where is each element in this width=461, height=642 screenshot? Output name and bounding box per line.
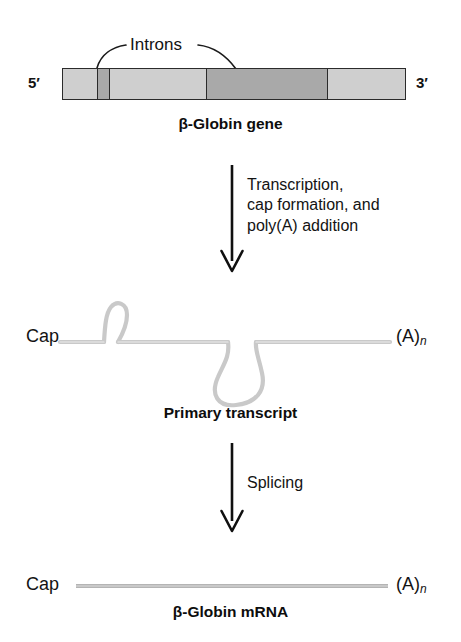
splicing-arrow-label: Splicing [247, 473, 303, 493]
splicing-arrow-icon [217, 443, 247, 533]
mrna-polya-label: (A)n [396, 573, 427, 598]
transcription-label-line-1: Transcription, [247, 175, 380, 195]
gene-segment-exon-1 [63, 69, 97, 99]
beta-globin-splicing-diagram: Introns 5′ 3′ β-Globin gene Transcriptio… [0, 0, 461, 642]
transcription-label-line-3: poly(A) addition [247, 216, 380, 236]
transcript-caption: Primary transcript [0, 404, 461, 422]
transcript-cap-label: Cap [26, 325, 59, 348]
mrna-polya-subscript: n [420, 582, 427, 596]
gene-segment-intron-2 [206, 69, 327, 99]
transcript-polya-text: (A) [396, 326, 420, 346]
three-prime-label: 3′ [416, 74, 428, 91]
mrna-caption: β-Globin mRNA [0, 603, 461, 621]
transcription-arrow-icon [217, 165, 247, 273]
gene-segment-intron-1 [97, 69, 109, 99]
mrna-strand [76, 584, 388, 588]
transcript-polya-label: (A)n [396, 325, 427, 350]
gene-segment-exon-2 [109, 69, 206, 99]
primary-transcript-strand [60, 295, 390, 415]
mrna-polya-text: (A) [396, 574, 420, 594]
gene-caption: β-Globin gene [0, 115, 461, 133]
mrna-cap-label: Cap [26, 573, 59, 596]
beta-globin-gene-bar [62, 68, 406, 100]
five-prime-label: 5′ [28, 74, 40, 91]
transcript-polya-subscript: n [420, 334, 427, 348]
gene-segment-exon-3 [327, 69, 405, 99]
transcription-label-line-2: cap formation, and [247, 195, 380, 215]
transcription-arrow-label: Transcription, cap formation, and poly(A… [247, 175, 380, 236]
